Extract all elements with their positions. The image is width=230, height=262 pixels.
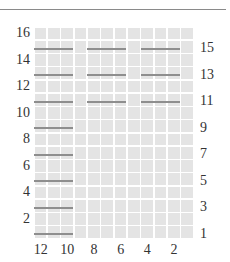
grid-cell <box>48 173 60 185</box>
stripe-line <box>141 48 180 50</box>
grid-cell <box>101 54 113 66</box>
grid-cell <box>48 120 60 132</box>
stripe-line <box>34 101 73 103</box>
column-label: 6 <box>108 243 134 257</box>
grid-cell <box>128 120 140 132</box>
grid-cell <box>35 226 47 238</box>
row-label-left: 10 <box>6 106 30 120</box>
grid-cell <box>48 41 60 53</box>
grid-cell <box>101 81 113 93</box>
grid-cell <box>141 147 153 159</box>
stripe-line <box>34 180 73 182</box>
grid-cell <box>61 226 73 238</box>
grid-cell <box>115 41 127 53</box>
column-label: 8 <box>81 243 107 257</box>
grid-cell <box>181 28 193 40</box>
grid-cell <box>181 187 193 199</box>
row-label-left: 16 <box>6 26 30 40</box>
grid-cell <box>48 67 60 79</box>
grid-cell <box>181 173 193 185</box>
grid-cell <box>35 107 47 119</box>
grid-cell <box>115 120 127 132</box>
column-label: 10 <box>54 243 80 257</box>
stitch-grid <box>34 27 194 239</box>
grid-cell <box>101 107 113 119</box>
grid-cell <box>48 200 60 212</box>
grid-cell <box>88 67 100 79</box>
grid-cell <box>35 120 47 132</box>
grid-cell <box>128 28 140 40</box>
grid-cell <box>128 173 140 185</box>
grid-cell <box>48 187 60 199</box>
grid-cell <box>168 134 180 146</box>
grid-cell <box>75 28 87 40</box>
grid-cell <box>155 94 167 106</box>
grid-cell <box>155 120 167 132</box>
grid-cell <box>61 81 73 93</box>
grid-cell <box>48 81 60 93</box>
grid-cell <box>168 28 180 40</box>
grid-cell <box>61 173 73 185</box>
grid-cell <box>35 200 47 212</box>
grid-cell <box>35 147 47 159</box>
grid-cell <box>35 54 47 66</box>
grid-cell <box>155 107 167 119</box>
grid-cell <box>155 54 167 66</box>
row-label-right: 7 <box>200 147 207 161</box>
grid-cell <box>181 67 193 79</box>
grid-cell <box>88 134 100 146</box>
grid-cell <box>61 120 73 132</box>
grid-cell <box>48 94 60 106</box>
row-label-right: 15 <box>200 41 214 55</box>
grid-cell <box>101 94 113 106</box>
grid-cell <box>128 226 140 238</box>
grid-cell <box>128 41 140 53</box>
grid-cell <box>141 28 153 40</box>
grid-cell <box>48 226 60 238</box>
grid-cell <box>88 120 100 132</box>
grid-cell <box>115 200 127 212</box>
stripe-line <box>141 101 180 103</box>
grid-cell <box>168 54 180 66</box>
grid-cell <box>48 134 60 146</box>
row-label-right: 1 <box>200 227 207 241</box>
grid-cell <box>75 94 87 106</box>
grid-cell <box>128 94 140 106</box>
row-label-left: 12 <box>6 79 30 93</box>
grid-cell <box>61 107 73 119</box>
grid-cell <box>48 160 60 172</box>
grid-cell <box>48 147 60 159</box>
grid-cell <box>181 147 193 159</box>
grid-cell <box>35 94 47 106</box>
stripe-line <box>87 74 126 76</box>
grid-cell <box>75 81 87 93</box>
grid-cell <box>168 200 180 212</box>
grid-cell <box>101 187 113 199</box>
grid-cell <box>168 187 180 199</box>
grid-cell <box>128 67 140 79</box>
grid-cell <box>128 187 140 199</box>
grid-cell <box>61 134 73 146</box>
grid-cell <box>141 187 153 199</box>
grid-cell <box>155 160 167 172</box>
grid-cell <box>101 213 113 225</box>
grid-cell <box>115 134 127 146</box>
grid-cell <box>141 120 153 132</box>
grid-cell <box>181 226 193 238</box>
stripe-line <box>34 127 73 129</box>
grid-cell <box>35 67 47 79</box>
grid-cell <box>101 160 113 172</box>
top-rule <box>0 9 226 10</box>
grid-cell <box>35 134 47 146</box>
grid-cell <box>75 173 87 185</box>
row-label-left: 6 <box>6 159 30 173</box>
grid-cell <box>75 160 87 172</box>
row-label-left: 4 <box>6 185 30 199</box>
grid-cell <box>88 173 100 185</box>
grid-cell <box>88 226 100 238</box>
grid-cell <box>61 54 73 66</box>
grid-cell <box>141 67 153 79</box>
row-label-right: 5 <box>200 174 207 188</box>
grid-cell <box>61 200 73 212</box>
grid-cell <box>88 160 100 172</box>
